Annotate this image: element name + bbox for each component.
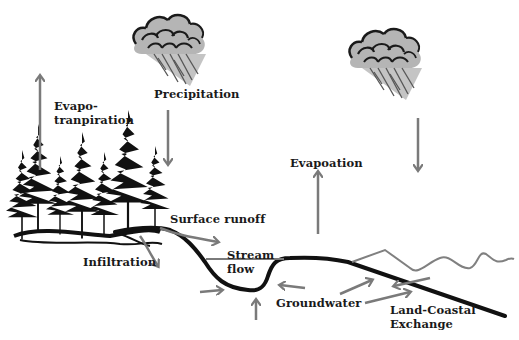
label-evapotranspiration-line1: Evapo- <box>54 99 134 113</box>
label-land-coastal-exchange: Land-Coastal Exchange <box>390 303 476 331</box>
sea-wave-line <box>352 250 514 270</box>
label-stream-flow-line1: Stream <box>227 248 274 262</box>
label-evapotranspiration: Evapo- tranpiration <box>54 99 134 127</box>
label-evapotranspiration-line2: tranpiration <box>54 113 134 127</box>
label-stream-flow-line2: flow <box>227 262 274 276</box>
label-infiltration: Infiltration <box>83 255 156 269</box>
label-stream-flow: Stream flow <box>227 248 274 276</box>
groundwater-arrow-to-stream <box>280 285 305 288</box>
label-land-coastal-line2: Exchange <box>390 317 476 331</box>
label-evaporation: Evapoation <box>290 156 363 170</box>
forest-ground <box>14 230 162 246</box>
groundwater-arrow-left <box>200 290 222 292</box>
land-coastal-arrow-out <box>365 292 410 303</box>
groundwater-arrow-to-coast <box>340 280 372 294</box>
label-groundwater: Groundwater <box>276 296 361 310</box>
forest-icon <box>6 110 170 240</box>
diagram-canvas <box>0 0 519 340</box>
label-surface-runoff: Surface runoff <box>170 212 265 226</box>
rain-cloud-icon-right <box>350 29 422 100</box>
label-land-coastal-line1: Land-Coastal <box>390 303 476 317</box>
label-precipitation: Precipitation <box>154 87 240 101</box>
water-cycle-diagram: Evapo- tranpiration Precipitation Evapoa… <box>0 0 519 340</box>
rain-cloud-icon-left <box>134 15 206 86</box>
